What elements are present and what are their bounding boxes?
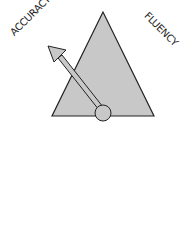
pivot-circle — [95, 105, 111, 121]
